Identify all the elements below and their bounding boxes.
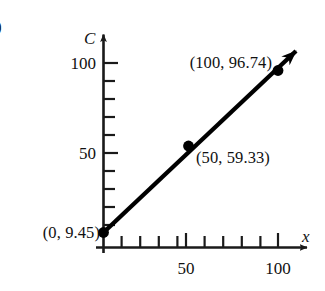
figure-container: ) C x 100 50 50 100 (0, 9.45) (50, 59.33… xyxy=(0,0,325,291)
x-tick-label-50: 50 xyxy=(178,260,195,277)
data-point-100-96-74 xyxy=(273,65,284,76)
cost-function-line xyxy=(104,51,297,233)
x-axis-ticks xyxy=(122,233,278,247)
x-axis xyxy=(96,233,307,248)
y-tick-label-100: 100 xyxy=(71,55,97,72)
figure-corner-mark: ) xyxy=(0,18,2,35)
y-axis-label: C xyxy=(84,30,95,47)
graph-canvas xyxy=(0,0,325,291)
data-point-50-59-33 xyxy=(183,141,194,152)
x-axis-label: x xyxy=(302,228,310,245)
y-tick-label-50: 50 xyxy=(79,145,96,162)
point-label-high: (100, 96.74) xyxy=(190,55,272,72)
point-label-origin: (0, 9.45) xyxy=(43,225,100,242)
point-label-mid: (50, 59.33) xyxy=(196,150,270,167)
y-axis-ticks xyxy=(104,63,118,225)
x-tick-label-100: 100 xyxy=(265,260,291,277)
data-series-line xyxy=(104,51,297,233)
